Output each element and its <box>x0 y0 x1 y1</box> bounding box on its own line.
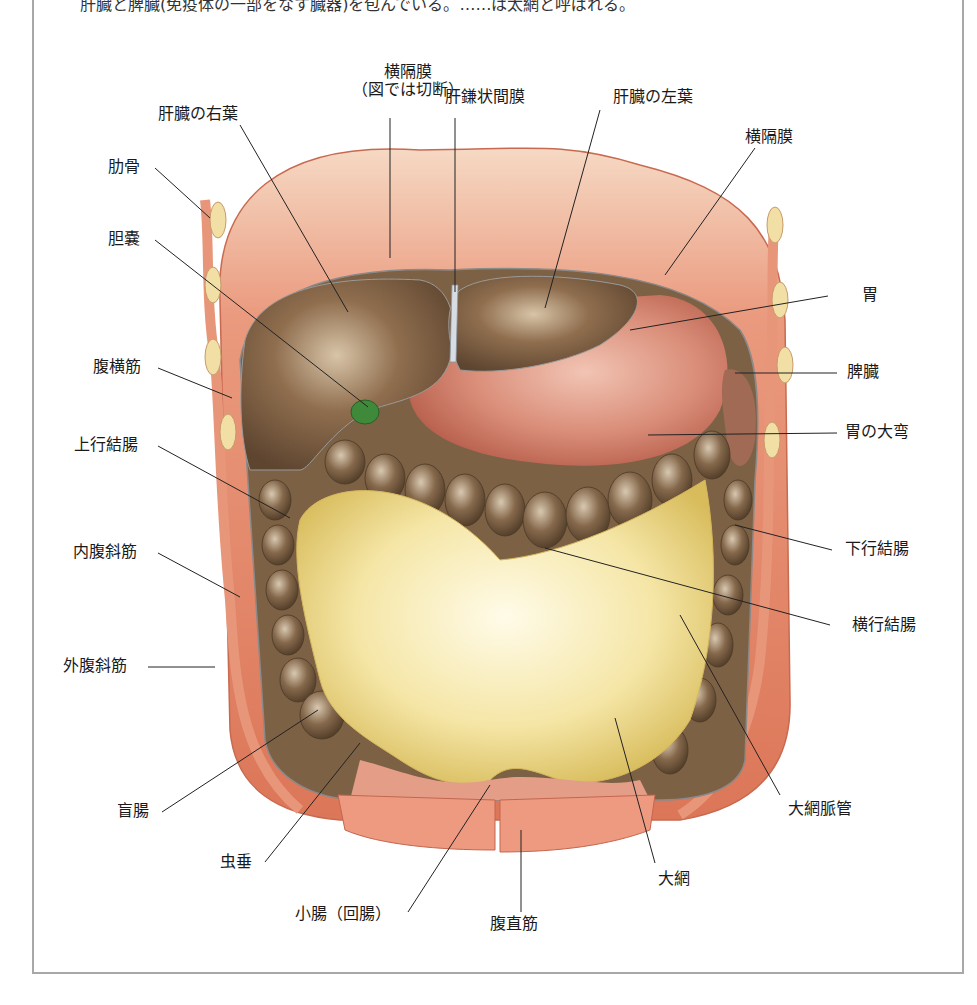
abdominal-organs-illustration <box>0 0 977 1005</box>
label-transverse-colon: 横行結腸 <box>852 616 916 634</box>
label-appendix: 虫垂 <box>220 853 252 871</box>
label-greater-curvature: 胃の大弯 <box>845 423 909 441</box>
label-external-oblique: 外腹斜筋 <box>63 657 127 675</box>
label-cecum: 盲腸 <box>117 802 149 820</box>
liver-left-lobe-shape <box>449 276 638 371</box>
label-diaphragm-cut-line1: 横隔膜 <box>352 63 464 81</box>
label-ascending-colon: 上行結腸 <box>74 436 138 454</box>
label-gallbladder: 胆嚢 <box>108 230 140 248</box>
label-rib: 肋骨 <box>108 158 140 176</box>
label-descending-colon: 下行結腸 <box>845 540 909 558</box>
label-spleen: 脾臓 <box>847 363 879 381</box>
greater-omentum-shape <box>297 480 714 784</box>
anatomy-illustration: 横隔膜 （図では切断） 肝臓の右葉 肝鎌状間膜 肝臓の左葉 横隔膜 肋骨 胆嚢 … <box>0 0 977 1005</box>
liver-right-lobe-shape <box>241 279 454 470</box>
label-liver-right-lobe: 肝臓の右葉 <box>158 105 238 123</box>
label-omental-vessels: 大網脈管 <box>788 800 852 818</box>
label-diaphragm: 横隔膜 <box>745 128 793 146</box>
label-stomach: 胃 <box>862 286 878 304</box>
label-internal-oblique: 内腹斜筋 <box>73 543 137 561</box>
stomach-shape <box>410 295 728 466</box>
label-rectus-abdominis: 腹直筋 <box>490 915 538 933</box>
body-wall <box>220 148 790 820</box>
label-small-intestine: 小腸（回腸） <box>295 905 391 923</box>
label-liver-left-lobe: 肝臓の左葉 <box>613 88 693 106</box>
label-transversus-abdominis: 腹横筋 <box>93 358 141 376</box>
label-falciform-ligament: 肝鎌状間膜 <box>445 88 525 106</box>
label-greater-omentum: 大網 <box>658 870 690 888</box>
